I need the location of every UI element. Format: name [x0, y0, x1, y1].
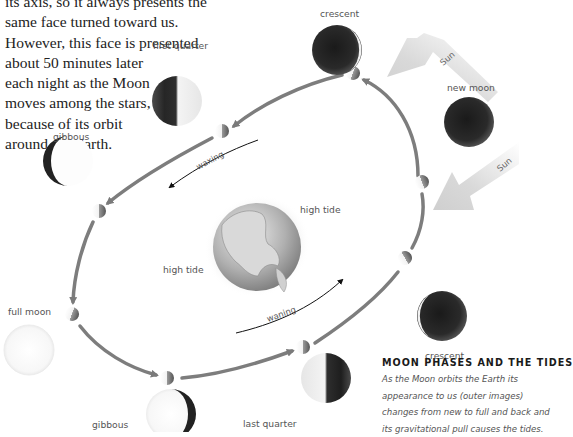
label-gibbous-bottom: gibbous — [92, 419, 128, 430]
label-full-moon: full moon — [8, 306, 51, 317]
orbit-moon — [63, 305, 81, 323]
phase-last-quarter — [301, 353, 351, 403]
orbit-arrow-segment — [412, 194, 423, 248]
orbit-moon — [395, 248, 414, 267]
label-high-tide-right: high tide — [300, 204, 341, 215]
orbit-moon — [413, 173, 431, 191]
caption-box: MOON PHASES AND THE TIDES As the Moon or… — [382, 357, 522, 437]
phase-gibbous-bottom — [146, 389, 196, 432]
orbit-arrow-segment — [182, 351, 292, 378]
caption-line: appearance to us (outer images) — [382, 388, 522, 405]
label-crescent-top: crescent — [320, 8, 359, 19]
caption-title: MOON PHASES AND THE TIDES — [382, 357, 522, 368]
sun-arrow-right: Sun — [433, 142, 519, 210]
label-high-tide-left: high tide — [163, 264, 204, 275]
orbit-moon — [296, 340, 310, 354]
waxing-label: waxing — [194, 149, 225, 172]
caption-line: changes from new to full and back and — [382, 404, 522, 421]
phase-crescent-right — [417, 291, 467, 341]
orbit-arrow-segment — [73, 222, 93, 302]
phase-gibbous-left — [43, 136, 93, 186]
caption-body: As the Moon orbits the Earth its appeara… — [382, 371, 522, 437]
orbit-arrow-segment — [108, 138, 212, 203]
orbit-moon — [160, 371, 174, 385]
orbit-arrow-segment — [364, 80, 418, 176]
waning-label: waning — [265, 304, 297, 324]
label-first-quarter: first quarter — [153, 40, 208, 51]
waxing-arrow: waxing — [170, 140, 258, 187]
phase-crescent-top — [312, 25, 362, 75]
phase-new-moon — [444, 97, 494, 147]
orbit-moon — [215, 124, 229, 138]
caption-line: As the Moon orbits the Earth its — [382, 371, 522, 388]
caption-line: its gravitational pull causes the tides. — [382, 421, 522, 437]
label-new-moon: new moon — [447, 82, 495, 93]
orbit-moon — [92, 204, 106, 218]
orbit-arrow-segment — [315, 272, 398, 343]
earth — [185, 176, 329, 317]
orbit-arrow-segment — [80, 326, 156, 375]
phase-full-moon — [4, 325, 54, 375]
orbit-arrow-segment — [234, 75, 342, 126]
phase-first-quarter — [152, 76, 202, 126]
label-last-quarter: last quarter — [243, 418, 297, 429]
label-gibbous-left: gibbous — [53, 131, 89, 142]
